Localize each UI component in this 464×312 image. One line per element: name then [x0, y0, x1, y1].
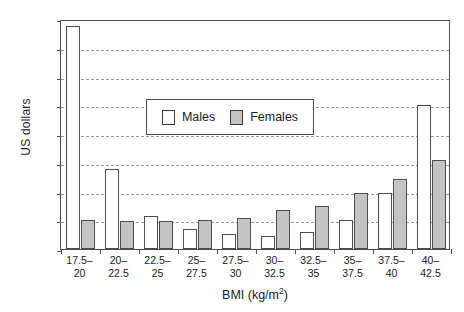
x-tick-label-line1: 30– — [266, 254, 284, 266]
bar-females — [354, 193, 368, 249]
bar-males — [261, 236, 275, 249]
x-tick-label-line2: 42.5 — [411, 267, 450, 280]
x-tick-label-line2: 37.5 — [333, 267, 372, 280]
x-tick-label-line2: 20 — [60, 267, 99, 280]
bar-females — [315, 206, 329, 249]
bar-females — [198, 220, 212, 249]
x-tick-label-line1: 17.5– — [66, 254, 92, 266]
x-tick-label-line1: 20– — [110, 254, 128, 266]
bar-group — [295, 21, 334, 249]
x-tick-label-line2: 40 — [372, 267, 411, 280]
bar-group — [178, 21, 217, 249]
x-axis-title-tail: ) — [284, 288, 288, 302]
bar-males — [300, 232, 314, 249]
x-tick-label-line1: 27.5– — [222, 254, 248, 266]
x-axis-tick-label: 30–32.5 — [255, 254, 294, 280]
bar-males — [183, 229, 197, 249]
bar-chart-figure: US dollars 02000400060008000100001200014… — [0, 0, 464, 312]
x-axis-tick-label: 17.5–20 — [60, 254, 99, 280]
bar-males — [144, 216, 158, 249]
bar-females — [237, 218, 251, 249]
x-tick-label-line1: 35– — [344, 254, 362, 266]
bar-females — [276, 210, 290, 249]
bar-group — [373, 21, 412, 249]
bar-males — [105, 169, 119, 250]
x-tick-label-line2: 32.5 — [255, 267, 294, 280]
x-tick-label-line2: 22.5 — [99, 267, 138, 280]
x-tick-label-line2: 25 — [138, 267, 177, 280]
x-tick-label-line1: 22.5– — [144, 254, 170, 266]
x-tick-label-line1: 40– — [422, 254, 440, 266]
x-tick-label-line1: 32.5– — [300, 254, 326, 266]
x-tick-label-line2: 35 — [294, 267, 333, 280]
bar-males — [66, 26, 80, 249]
x-axis-title-text: BMI (kg/m — [222, 288, 279, 302]
bar-group — [217, 21, 256, 249]
legend-label: Males — [182, 110, 215, 124]
legend-swatch-male — [162, 110, 175, 125]
x-axis-tick-label: 25–27.5 — [177, 254, 216, 280]
legend-swatch-female — [230, 110, 243, 125]
y-axis-title: US dollars — [19, 57, 33, 197]
x-axis-tick-label: 35–37.5 — [333, 254, 372, 280]
bar-males — [339, 220, 353, 249]
x-axis-title: BMI (kg/m2) — [60, 286, 450, 302]
x-axis-tick-label: 22.5–25 — [138, 254, 177, 280]
x-axis-tick-labels: 17.5–2020–22.522.5–2525–27.527.5–3030–32… — [60, 254, 450, 286]
x-axis-tick-mark — [451, 249, 452, 254]
bar-females — [159, 221, 173, 249]
bar-males — [222, 234, 236, 249]
bar-groups — [61, 21, 449, 249]
x-tick-label-line1: 37.5– — [378, 254, 404, 266]
bar-females — [81, 220, 95, 249]
x-tick-label-line1: 25– — [188, 254, 206, 266]
bar-group — [334, 21, 373, 249]
chart-legend: MalesFemales — [146, 99, 314, 135]
bar-group — [139, 21, 178, 249]
x-axis-tick-label: 40–42.5 — [411, 254, 450, 280]
bar-females — [432, 160, 446, 249]
legend-entry-females: Females — [230, 110, 298, 125]
x-axis-tick-label: 20–22.5 — [99, 254, 138, 280]
bar-group — [61, 21, 100, 249]
x-tick-label-line2: 27.5 — [177, 267, 216, 280]
bar-males — [378, 193, 392, 249]
bar-females — [120, 221, 134, 249]
x-axis-tick-label: 37.5–40 — [372, 254, 411, 280]
legend-label: Females — [250, 110, 298, 124]
plot-area — [60, 20, 450, 250]
legend-entry-males: Males — [162, 110, 215, 125]
bar-group — [256, 21, 295, 249]
x-axis-tick-label: 32.5–35 — [294, 254, 333, 280]
bar-group — [100, 21, 139, 249]
bar-group — [412, 21, 451, 249]
bar-males — [417, 105, 431, 249]
bar-females — [393, 179, 407, 249]
x-axis-tick-label: 27.5–30 — [216, 254, 255, 280]
x-tick-label-line2: 30 — [216, 267, 255, 280]
